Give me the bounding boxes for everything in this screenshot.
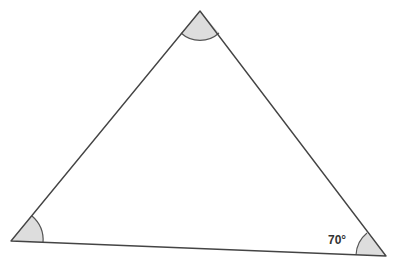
triangle-diagram: 70° xyxy=(0,0,398,267)
triangle-outline xyxy=(11,11,386,256)
right-angle-label: 70° xyxy=(328,233,346,247)
top-angle-marker xyxy=(181,11,219,40)
left-angle-marker xyxy=(11,216,43,243)
